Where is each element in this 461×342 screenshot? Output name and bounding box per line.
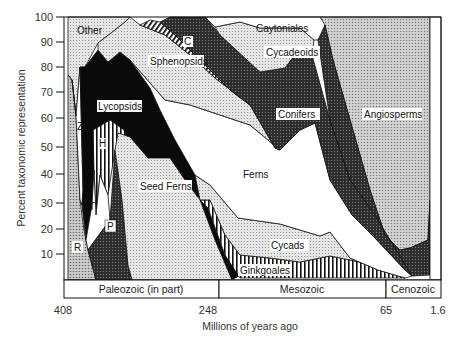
x-axis-title: Millions of years ago [202, 320, 298, 332]
y-tick-30: 30 [41, 197, 53, 209]
y-tick-70: 70 [41, 86, 53, 98]
y-axis: 100 90 80 70 60 50 40 30 20 10 Percent t… [15, 11, 64, 260]
label-t: T [89, 201, 95, 212]
y-tick-80: 80 [41, 61, 53, 73]
band-other-recent [430, 17, 441, 280]
label-c: C [184, 36, 191, 47]
y-tick-50: 50 [41, 141, 53, 153]
label-r: R [74, 242, 81, 253]
x-tick-408: 408 [54, 304, 72, 316]
label-p: P [107, 221, 114, 232]
label-cycads: Cycads [271, 240, 304, 251]
label-conifers: Conifers [278, 109, 315, 120]
label-cycadeoids: Cycadeoids [266, 47, 318, 58]
label-ferns: Ferns [243, 169, 269, 180]
x-tick-248: 248 [199, 304, 217, 316]
era-mesozoic-label: Mesozoic [280, 283, 324, 295]
evolution-area-chart: Paleozoic (in part) Mesozoic Cenozoic 10… [0, 0, 461, 342]
x-tick-65: 65 [380, 304, 392, 316]
y-tick-100: 100 [35, 11, 53, 23]
y-tick-60: 60 [41, 112, 53, 124]
label-ginkgoales: Ginkgoales [240, 265, 290, 276]
x-axis: 408 248 65 1.6 Millions of years ago [54, 304, 446, 332]
era-bar: Paleozoic (in part) Mesozoic Cenozoic [64, 280, 441, 298]
era-paleozoic-label: Paleozoic (in part) [99, 283, 184, 295]
label-other: Other [77, 25, 103, 36]
label-seed-ferns: Seed Ferns [140, 181, 192, 192]
label-angiosperms: Angiosperms [364, 109, 422, 120]
x-tick-1-6: 1.6 [430, 304, 445, 316]
label-caytoniales: Caytoniales [256, 23, 308, 34]
label-z: Z [77, 121, 83, 132]
y-tick-10: 10 [41, 248, 53, 260]
label-sphenopsids: Sphenopsids [150, 56, 208, 67]
y-tick-20: 20 [41, 223, 53, 235]
y-tick-40: 40 [41, 168, 53, 180]
label-h: H [99, 138, 106, 149]
y-tick-90: 90 [41, 36, 53, 48]
y-axis-title: Percent taxonomic representation [15, 69, 27, 226]
era-cenozoic-label: Cenozoic [391, 283, 435, 295]
label-lycopsids: Lycopsids [98, 101, 142, 112]
